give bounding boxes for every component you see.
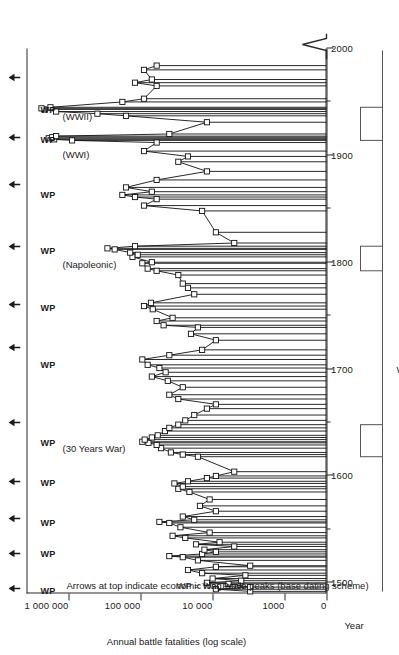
x-axis-tick-label: 1800 xyxy=(331,256,353,267)
rotated-figure-wrapper: 1500160017001800190020000100010 000100 0… xyxy=(0,0,399,655)
x-axis-minor-tick xyxy=(326,314,330,315)
long-wave-peak-arrow-icon xyxy=(8,129,18,145)
y-axis-tick xyxy=(326,593,327,600)
long-wave-peak-arrow-icon xyxy=(8,473,18,489)
plot-frame xyxy=(26,48,326,593)
y-axis-tick-label: 10 000 xyxy=(182,600,212,611)
era-label: (WWI) xyxy=(62,148,89,159)
x-axis-minor-tick xyxy=(326,421,330,422)
x-axis-minor-tick xyxy=(326,100,330,101)
era-label: (WWII) xyxy=(62,110,92,121)
war-peak-label: WP xyxy=(40,134,55,144)
y-axis-tick-label: 100 000 xyxy=(104,600,140,611)
war-peak-label: WP xyxy=(40,302,55,312)
y-axis-tick xyxy=(140,593,141,600)
war-peak-label: WP xyxy=(40,477,55,487)
x-axis-line xyxy=(326,48,327,593)
x-axis-tick-label: 2000 xyxy=(331,43,353,54)
long-wave-peak-arrow-icon xyxy=(8,238,18,254)
x-axis-title: Year xyxy=(344,620,363,631)
long-wave-peak-arrow-icon xyxy=(8,510,18,526)
war-peak-label: WP xyxy=(40,359,55,369)
long-wave-peak-arrow-icon xyxy=(8,176,18,192)
y-axis-title: Annual battle fatalities (log scale) xyxy=(106,636,245,647)
era-label: (Napoleonic) xyxy=(62,258,116,269)
figure: 1500160017001800190020000100010 000100 0… xyxy=(0,0,399,655)
wallerstein-periods-panel xyxy=(352,48,392,593)
y-axis-tick xyxy=(68,593,69,600)
x-axis-minor-tick xyxy=(326,528,330,529)
x-axis-tick-label: 1900 xyxy=(331,149,353,160)
long-wave-peak-arrow-icon xyxy=(8,296,18,312)
long-wave-peak-arrow-icon xyxy=(8,69,18,85)
y-axis-tick-label: 1000 xyxy=(262,600,284,611)
war-peak-label: WP xyxy=(40,189,55,199)
era-label: (30 Years War) xyxy=(62,442,125,453)
y-axis-tick-label: 1 000 000 xyxy=(24,600,68,611)
war-peak-label: WP xyxy=(40,517,55,527)
y-axis-tick xyxy=(212,593,213,600)
war-peak-label: WP xyxy=(40,437,55,447)
war-peak-label: WP xyxy=(40,245,55,255)
y-axis-tick xyxy=(284,593,285,600)
x-axis-minor-tick xyxy=(326,207,330,208)
y-axis-tick-label: 0 xyxy=(321,600,326,611)
long-wave-peak-arrow-icon xyxy=(8,414,18,430)
long-wave-peak-arrow-icon xyxy=(8,580,18,596)
long-wave-peak-arrow-icon xyxy=(8,545,18,561)
x-axis-tick-label: 1600 xyxy=(331,470,353,481)
war-peak-label: WP xyxy=(40,548,55,558)
x-axis-tick-label: 1700 xyxy=(331,363,353,374)
war-peak-label: WP xyxy=(40,104,55,114)
long-wave-peak-arrow-icon xyxy=(8,339,18,355)
note-war-peak: WP = War Peak xyxy=(176,579,243,590)
war-peak-label: WP xyxy=(40,585,55,595)
axis-break-zigzag xyxy=(296,33,332,59)
